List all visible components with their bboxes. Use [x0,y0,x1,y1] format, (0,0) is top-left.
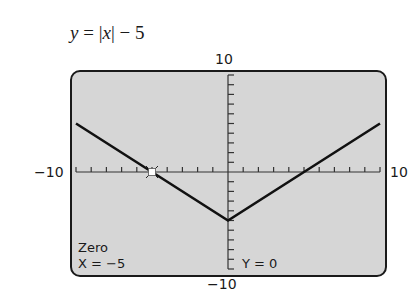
readout-y: Y = 0 [242,256,277,271]
readout-x: X = −5 [78,256,125,271]
graph-plot [0,0,408,301]
axes [76,75,380,269]
readout-mode: Zero [78,240,108,255]
